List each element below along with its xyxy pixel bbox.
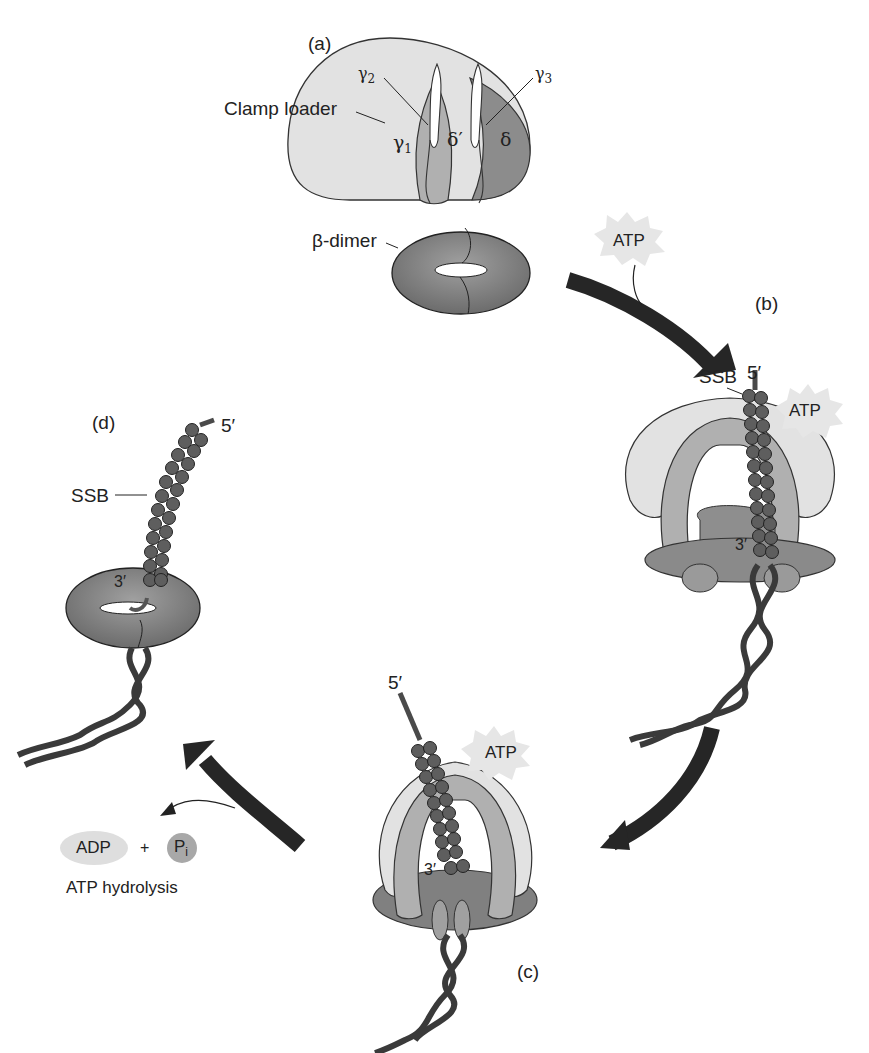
delta-prime-label: δ′ xyxy=(447,130,463,149)
delta-label: δ xyxy=(500,130,511,149)
beta-dimer-ring-a xyxy=(386,228,530,314)
gamma2-label: γ2 xyxy=(358,66,375,85)
adp-label: ADP xyxy=(76,839,111,856)
atp-label-free: ATP xyxy=(613,232,645,249)
arrow-c-to-d xyxy=(160,740,300,846)
dna-helix-c xyxy=(375,935,464,1053)
ssb-label-b: SSB xyxy=(699,367,737,386)
panel-label-b: (b) xyxy=(755,294,778,313)
arrow-b-to-c xyxy=(600,728,712,850)
plus-sign: + xyxy=(140,840,149,856)
three-prime-label-d: 3′ xyxy=(114,574,126,590)
clamp-loader-a xyxy=(288,38,533,204)
three-prime-label-b: 3′ xyxy=(735,537,747,553)
panel-label-c: (c) xyxy=(517,962,539,981)
arrow-a-to-b xyxy=(568,265,736,378)
five-prime-label-c: 5′ xyxy=(388,673,402,692)
three-prime-label-c: 3′ xyxy=(424,862,436,878)
five-prime-label-d: 5′ xyxy=(221,416,235,435)
clamp-loader-label: Clamp loader xyxy=(224,99,337,118)
atp-label-bound-c: ATP xyxy=(485,744,517,761)
dna-helix-d xyxy=(18,648,148,765)
atp-label-bound-b: ATP xyxy=(789,402,821,419)
pi-label: Pi xyxy=(174,838,188,858)
ssb-label-d: SSB xyxy=(71,486,109,505)
gamma1-label: γ1 xyxy=(393,133,412,155)
gamma3-label: γ3 xyxy=(535,66,552,85)
five-prime-label-b: 5′ xyxy=(747,363,761,382)
atp-hydrolysis-caption: ATP hydrolysis xyxy=(66,879,178,896)
panel-label-a: (a) xyxy=(308,34,331,53)
beta-dimer-label: β-dimer xyxy=(312,231,377,250)
panel-label-d: (d) xyxy=(92,413,115,432)
